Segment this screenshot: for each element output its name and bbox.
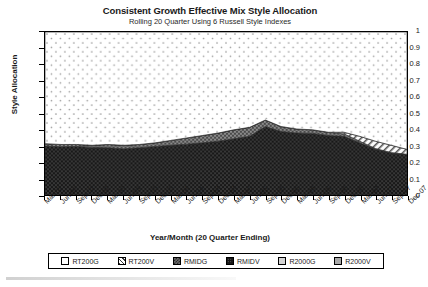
legend-item-rmidv[interactable]: RMIDV — [226, 257, 260, 265]
plot-area — [44, 31, 408, 196]
x-axis-title: Year/Month (20 Quarter Ending) — [0, 233, 420, 242]
legend-swatch-rmidv — [226, 257, 234, 265]
chart-title: Consistent Growth Effective Mix Style Al… — [0, 5, 420, 16]
scan-artifact — [6, 277, 236, 280]
legend-label: RMIDG — [184, 258, 207, 265]
legend-item-rt200g[interactable]: RT200G — [61, 257, 98, 265]
area-series-rt200g — [45, 32, 407, 149]
legend-label: RT200G — [72, 258, 98, 265]
y-axis-title: Style Allocation — [10, 20, 19, 150]
legend-label: RT200V — [129, 258, 155, 265]
legend-item-rmidg[interactable]: RMIDG — [173, 257, 207, 265]
plot-svg — [45, 32, 407, 195]
legend-swatch-r2000v — [334, 257, 342, 265]
legend-swatch-rt200g — [61, 257, 69, 265]
chart-subtitle: Rolling 20 Quarter Using 6 Russell Style… — [0, 17, 420, 26]
legend-item-r2000v[interactable]: R2000V — [334, 257, 370, 265]
legend-swatch-rt200v — [118, 257, 126, 265]
chart-legend: RT200GRT200VRMIDGRMIDVR2000GR2000V — [48, 253, 384, 269]
legend-item-rt200v[interactable]: RT200V — [118, 257, 155, 265]
plot-clip — [45, 32, 407, 195]
legend-label: R2000V — [345, 258, 370, 265]
legend-swatch-r2000g — [278, 257, 286, 265]
area-series-layer — [45, 32, 407, 195]
legend-label: RMIDV — [237, 258, 260, 265]
legend-item-r2000g[interactable]: R2000G — [278, 257, 315, 265]
legend-swatch-rmidg — [173, 257, 181, 265]
legend-label: R2000G — [289, 258, 315, 265]
